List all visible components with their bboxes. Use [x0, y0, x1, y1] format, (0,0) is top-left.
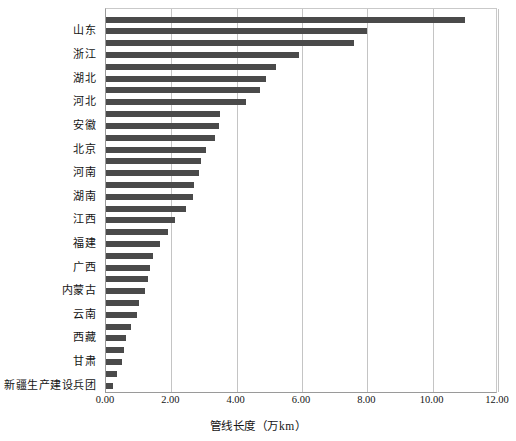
bar-row [106, 96, 246, 108]
y-axis-tick-label: 浙江 [73, 49, 96, 60]
bar [106, 40, 354, 46]
bar [106, 170, 199, 176]
bar-row [106, 132, 215, 144]
y-axis-tick-label: 安徽 [73, 119, 96, 130]
bar [106, 87, 260, 93]
bar [106, 253, 153, 259]
y-axis-tick-label: 福建 [73, 238, 96, 249]
y-axis-tick-label: 北京 [73, 143, 96, 154]
bar-row [106, 285, 145, 297]
y-axis-tick-label: 新疆生产建设兵团 [4, 379, 96, 390]
x-axis-title: 管线长度（万km） [0, 417, 516, 433]
bar-row [106, 238, 160, 250]
bar-row [106, 14, 465, 26]
y-axis-tick-label: 湖南 [73, 190, 96, 201]
y-axis-tick-label: 河北 [73, 96, 96, 107]
bar [106, 217, 175, 223]
x-axis-tick-label: 2.00 [161, 394, 179, 406]
bar-chart: 山东浙江湖北河北安徽北京河南湖南江西福建广西内蒙古云南西藏甘肃新疆生产建设兵团 … [0, 0, 516, 441]
bar [106, 206, 186, 212]
bar-row [106, 120, 219, 132]
bar-row [106, 321, 131, 333]
bar-row [106, 297, 139, 309]
bar-row [106, 203, 186, 215]
bar [106, 182, 194, 188]
bar-row [106, 167, 199, 179]
y-axis-tick-label: 甘肃 [73, 356, 96, 367]
bar-row [106, 250, 153, 262]
bar-row [106, 49, 299, 61]
x-axis-tick-label: 8.00 [357, 394, 375, 406]
bar [106, 52, 299, 58]
y-axis-tick-label: 西藏 [73, 332, 96, 343]
bar-row [106, 368, 117, 380]
x-axis-tick-label: 6.00 [292, 394, 310, 406]
bar-row [106, 61, 276, 73]
bar-row [106, 155, 201, 167]
bar-row [106, 85, 260, 97]
x-axis-tick-label: 10.00 [420, 394, 444, 406]
y-axis-tick-label: 湖北 [73, 72, 96, 83]
x-axis-tick-label: 4.00 [226, 394, 244, 406]
gridline [498, 9, 499, 392]
bar-row [106, 191, 193, 203]
bar [106, 335, 126, 341]
bar-row [106, 262, 150, 274]
bar [106, 64, 276, 70]
bar [106, 17, 465, 23]
bar-row [106, 309, 137, 321]
bar [106, 194, 193, 200]
bar [106, 359, 122, 365]
bar-row [106, 37, 354, 49]
bar [106, 158, 201, 164]
bar [106, 147, 206, 153]
bar [106, 28, 367, 34]
y-axis-tick-labels: 山东浙江湖北河北安徽北京河南湖南江西福建广西内蒙古云南西藏甘肃新疆生产建设兵团 [0, 8, 101, 393]
bar-row [106, 108, 220, 120]
bar [106, 276, 148, 282]
bar [106, 288, 145, 294]
bar [106, 347, 124, 353]
bar [106, 324, 131, 330]
bar-row [106, 333, 126, 345]
bar [106, 123, 219, 129]
y-axis-tick-label: 云南 [73, 308, 96, 319]
bar-row [106, 356, 122, 368]
x-axis-tick-label: 12.00 [485, 394, 509, 406]
bar [106, 265, 150, 271]
bar-row [106, 226, 168, 238]
x-axis-tick-label: 0.00 [96, 394, 114, 406]
bar [106, 300, 139, 306]
bar [106, 383, 113, 389]
bar [106, 371, 117, 377]
y-axis-tick-label: 河南 [73, 167, 96, 178]
bar [106, 135, 215, 141]
x-axis-tick-labels: 0.002.004.006.008.0010.0012.00 [105, 394, 497, 412]
bar-row [106, 344, 124, 356]
y-axis-tick-label: 山东 [73, 25, 96, 36]
bar-row [106, 26, 367, 38]
bar [106, 99, 246, 105]
bar-row [106, 274, 148, 286]
bar [106, 111, 220, 117]
bar [106, 312, 137, 318]
bars-layer [106, 9, 496, 392]
bar [106, 229, 168, 235]
y-axis-tick-label: 江西 [73, 214, 96, 225]
y-axis-tick-label: 广西 [73, 261, 96, 272]
y-axis-tick-label: 内蒙古 [62, 285, 97, 296]
bar-row [106, 144, 206, 156]
bar-row [106, 73, 266, 85]
bar-row [106, 179, 194, 191]
plot-area [105, 8, 497, 393]
bar-row [106, 214, 175, 226]
bar [106, 76, 266, 82]
bar-row [106, 380, 113, 392]
bar [106, 241, 160, 247]
